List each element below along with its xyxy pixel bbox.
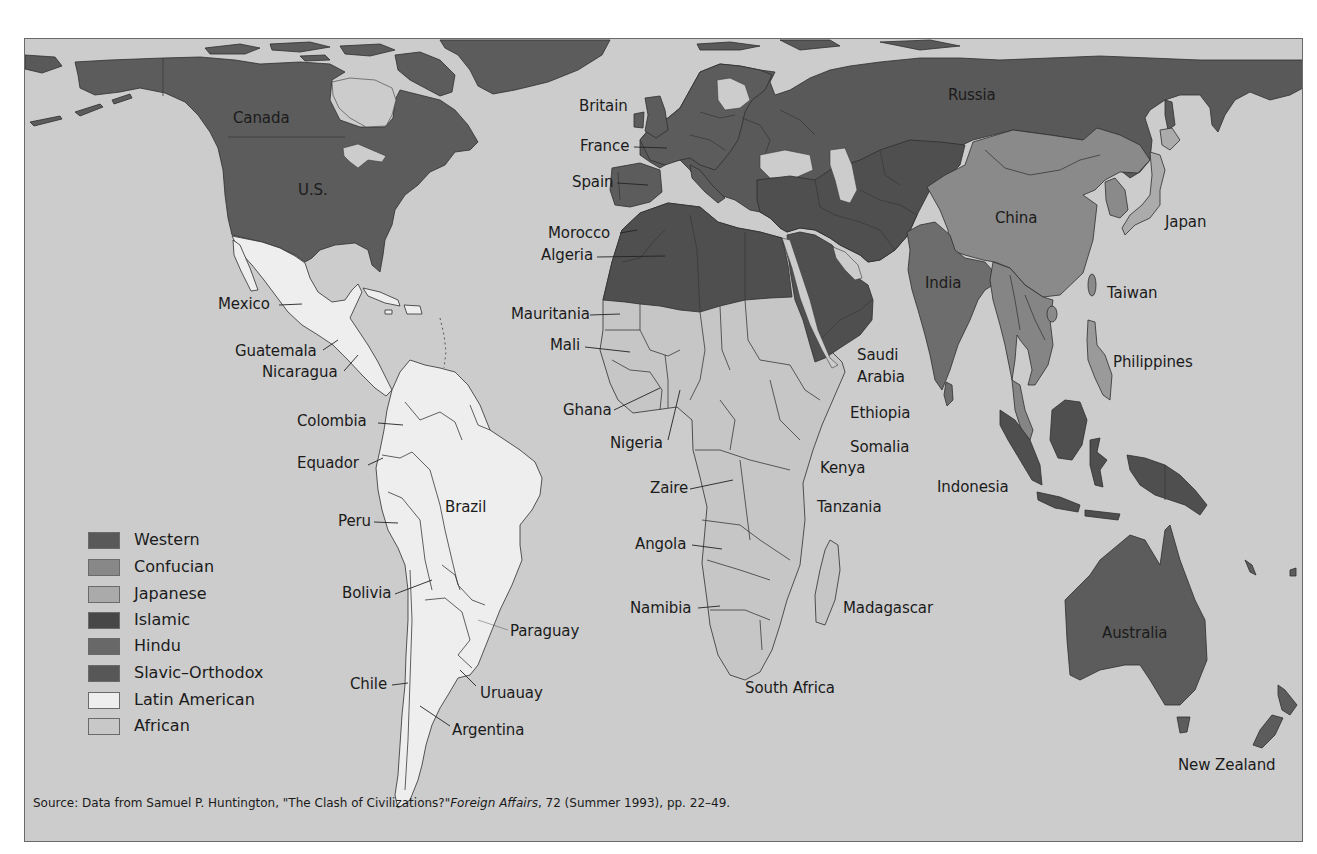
map-label-britain: Britain <box>579 97 628 115</box>
legend-item-latin-american: Latin American <box>88 691 255 709</box>
map-label-china: China <box>995 209 1037 227</box>
map-label-angola: Angola <box>635 535 686 553</box>
map-label-madagascar: Madagascar <box>843 599 933 617</box>
map-label-chile: Chile <box>350 675 387 693</box>
map-label-philippines: Philippines <box>1113 353 1193 371</box>
map-label-peru: Peru <box>338 512 371 530</box>
map-label-equador: Equador <box>297 454 359 472</box>
map-label-guatemala: Guatemala <box>235 342 317 360</box>
legend-label: Hindu <box>134 637 181 655</box>
legend-item-slavic-orthodox: Slavic–Orthodox <box>88 664 263 682</box>
map-label-zaire: Zaire <box>650 479 688 497</box>
legend-swatch-hindu <box>88 638 120 655</box>
legend-label: Confucian <box>134 558 214 576</box>
region-oceania <box>1065 525 1297 748</box>
map-label-japan: Japan <box>1165 213 1206 231</box>
legend-label: Latin American <box>134 691 255 709</box>
map-label-nigeria: Nigeria <box>610 434 663 452</box>
map-label-south-africa: South Africa <box>745 679 835 697</box>
map-label-ghana: Ghana <box>563 401 612 419</box>
map-label-saudi-arabia: Saudi Arabia <box>857 344 905 388</box>
map-label-nicaragua: Nicaragua <box>262 363 338 381</box>
source-suffix: , 72 (Summer 1993), pp. 22–49. <box>538 796 730 810</box>
legend-label: Islamic <box>134 611 190 629</box>
source-journal: Foreign Affairs <box>450 796 538 810</box>
source-prefix: Source: Data from Samuel P. Huntington, … <box>33 796 450 810</box>
map-label-namibia: Namibia <box>630 599 691 617</box>
map-label-argentina: Argentina <box>452 721 524 739</box>
legend-item-african: African <box>88 717 190 735</box>
legend-label: Western <box>134 531 200 549</box>
legend-swatch-confucian <box>88 559 120 576</box>
legend-label: Slavic–Orthodox <box>134 664 263 682</box>
legend-swatch-african <box>88 718 120 735</box>
source-citation: Source: Data from Samuel P. Huntington, … <box>33 795 730 811</box>
legend-item-confucian: Confucian <box>88 558 214 576</box>
world-map <box>0 0 1317 854</box>
map-label-australia: Australia <box>1102 624 1167 642</box>
legend-item-japanese: Japanese <box>88 585 207 603</box>
legend-swatch-latin-american <box>88 692 120 709</box>
map-label-mali: Mali <box>550 336 580 354</box>
legend-swatch-japanese <box>88 586 120 603</box>
map-label-uruguay: Uruauay <box>480 684 543 702</box>
map-label-somalia: Somalia <box>850 438 909 456</box>
map-label-ethiopia: Ethiopia <box>850 404 910 422</box>
map-label-paraguay: Paraguay <box>510 622 579 640</box>
map-label-us: U.S. <box>298 181 328 199</box>
map-label-mauritania: Mauritania <box>511 305 590 323</box>
map-label-algeria: Algeria <box>541 246 593 264</box>
legend-label: African <box>134 717 190 735</box>
map-label-tanzania: Tanzania <box>817 498 882 516</box>
legend-swatch-slavic-orthodox <box>88 665 120 682</box>
map-label-mexico: Mexico <box>218 295 270 313</box>
map-label-russia: Russia <box>948 86 996 104</box>
region-north-america <box>25 40 610 272</box>
map-label-france: France <box>580 137 629 155</box>
legend-swatch-western <box>88 532 120 549</box>
map-label-morocco: Morocco <box>548 224 610 242</box>
map-label-bolivia: Bolivia <box>342 584 391 602</box>
legend-label: Japanese <box>134 585 207 603</box>
map-label-canada: Canada <box>233 109 289 127</box>
map-label-taiwan: Taiwan <box>1107 284 1157 302</box>
map-label-colombia: Colombia <box>297 412 367 430</box>
legend-item-western: Western <box>88 531 200 549</box>
map-label-spain: Spain <box>572 173 613 191</box>
map-label-indonesia: Indonesia <box>937 478 1009 496</box>
map-label-kenya: Kenya <box>820 459 865 477</box>
legend-item-islamic: Islamic <box>88 611 190 629</box>
map-label-new-zealand: New Zealand <box>1178 756 1275 774</box>
map-label-india: India <box>925 274 961 292</box>
legend-swatch-islamic <box>88 612 120 629</box>
map-label-brazil: Brazil <box>445 498 486 516</box>
legend-item-hindu: Hindu <box>88 637 181 655</box>
